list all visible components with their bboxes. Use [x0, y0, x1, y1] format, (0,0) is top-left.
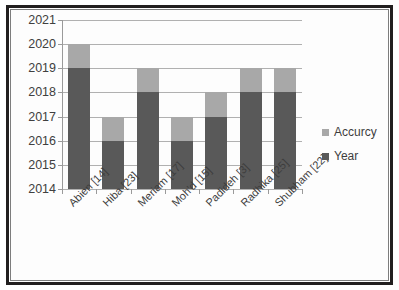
y-axis-tick-label: 2017: [12, 111, 56, 124]
y-axis-tick-label: 2019: [12, 62, 56, 75]
x-axis-tick: [268, 189, 269, 194]
legend-item[interactable]: Year: [322, 150, 392, 162]
y-axis-tick: [58, 165, 63, 166]
bar-column[interactable]: [137, 20, 159, 189]
legend-item[interactable]: Accurcy: [322, 126, 392, 138]
x-axis-tick: [199, 189, 200, 194]
legend-swatch-icon: [322, 153, 329, 160]
x-axis-tick: [62, 189, 63, 194]
legend-label: Year: [334, 150, 358, 162]
x-axis-labels: Abien [14]Hiba [23]Meriam [17]Moh'd [15]…: [62, 195, 312, 275]
bar-segment-accurcy[interactable]: [205, 92, 227, 116]
bar-column[interactable]: [205, 20, 227, 189]
bar-segment-year[interactable]: [68, 68, 90, 189]
bar-segment-accurcy[interactable]: [171, 117, 193, 141]
bar-segment-accurcy[interactable]: [240, 68, 262, 92]
bar-segment-accurcy[interactable]: [102, 117, 124, 141]
y-axis-tick-label: 2021: [12, 14, 56, 27]
x-axis-tick: [165, 189, 166, 194]
bar-column[interactable]: [68, 20, 90, 189]
bar-column[interactable]: [102, 20, 124, 189]
y-axis-tick-label: 2018: [12, 86, 56, 99]
bar-segment-year[interactable]: [137, 92, 159, 189]
y-axis-tick: [58, 141, 63, 142]
legend-swatch-icon: [322, 129, 329, 136]
x-axis-tick: [131, 189, 132, 194]
bar-segment-accurcy[interactable]: [68, 44, 90, 68]
chart-screenshot: 20212020201920182017201620152014 Abien […: [0, 0, 399, 290]
x-axis-tick: [233, 189, 234, 194]
x-axis-tick: [302, 189, 303, 194]
y-axis-tick: [58, 92, 63, 93]
bar-segment-accurcy[interactable]: [274, 68, 296, 92]
y-axis-tick: [58, 117, 63, 118]
legend-label: Accurcy: [334, 126, 377, 138]
y-axis-tick: [58, 68, 63, 69]
plot-area: [62, 20, 302, 189]
y-axis-tick-label: 2020: [12, 38, 56, 51]
y-axis-tick: [58, 44, 63, 45]
chart-legend: AccurcyYear: [322, 126, 392, 174]
y-axis-labels: 20212020201920182017201620152014: [10, 20, 56, 190]
bar-segment-accurcy[interactable]: [137, 68, 159, 92]
y-axis-tick-label: 2016: [12, 135, 56, 148]
y-axis-tick-label: 2014: [12, 183, 56, 196]
y-axis-tick: [58, 20, 63, 21]
y-axis-tick-label: 2015: [12, 159, 56, 172]
x-axis-tick: [96, 189, 97, 194]
